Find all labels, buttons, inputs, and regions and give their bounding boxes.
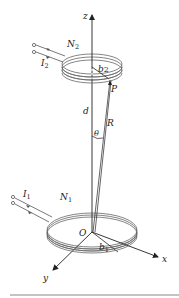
lower-coil-leads bbox=[11, 195, 52, 222]
upper-coil-turns-label: N2 bbox=[66, 39, 79, 51]
coil-diagram: z x y O N2 I2 b2 P d R θ N1 I1 b1 bbox=[0, 0, 179, 298]
vector-R bbox=[93, 80, 111, 232]
point-P-label: P bbox=[110, 84, 118, 94]
vector-R-label: R bbox=[106, 118, 114, 128]
upper-coil-radius-label: b2 bbox=[98, 64, 109, 74]
origin-label: O bbox=[79, 228, 87, 238]
y-axis-label: y bbox=[42, 273, 49, 283]
x-axis-label: x bbox=[162, 254, 167, 264]
angle-theta-label: θ bbox=[94, 129, 99, 138]
z-axis-label: z bbox=[82, 11, 88, 21]
distance-d-label: d bbox=[83, 106, 89, 116]
upper-coil-current-label: I2 bbox=[40, 58, 49, 70]
upper-coil-leads bbox=[32, 43, 65, 62]
lower-coil-current-label: I1 bbox=[22, 189, 31, 201]
lower-coil-turns-label: N1 bbox=[59, 192, 72, 204]
